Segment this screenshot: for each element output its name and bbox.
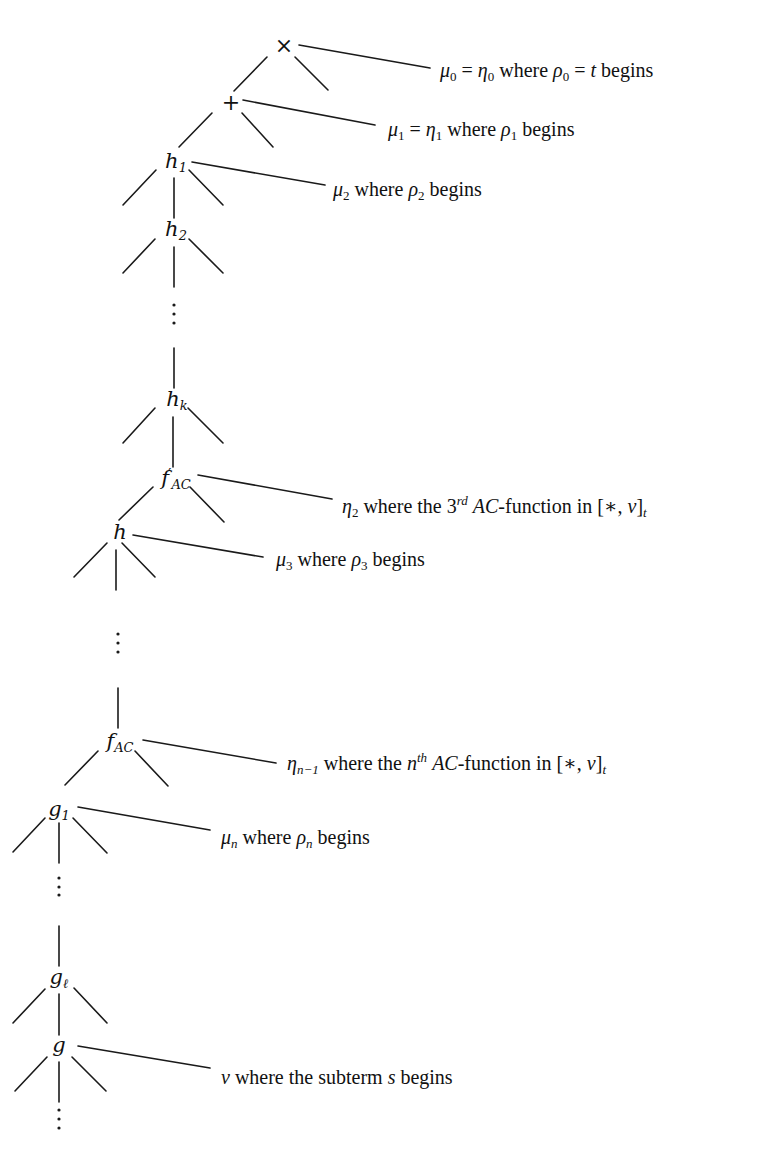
tree-edge [13, 818, 45, 852]
vertical-ellipsis-dot [57, 1117, 60, 1120]
annotation-nu: ν where the subterm s begins [221, 1067, 453, 1087]
vertical-ellipsis-dot [57, 876, 60, 879]
annotation-mu3: μ3 where ρ3 begins [276, 549, 425, 572]
node-subscript: ℓ [63, 976, 68, 991]
vertical-ellipsis-dot [57, 885, 60, 888]
vertical-ellipsis-dot [116, 650, 119, 653]
annotation-text-part: = [569, 59, 590, 81]
tree-node-f-ac: fAC [106, 731, 133, 754]
vertical-ellipsis-dot [172, 303, 175, 306]
annotation-pointer-line [192, 162, 325, 185]
tree-node-times: × [275, 35, 293, 57]
tree-node-g-l: gℓ [50, 967, 69, 990]
annotation-text-part: μ [388, 118, 398, 140]
annotation-text-part: begins [425, 178, 482, 200]
annotation-text-part: where [293, 548, 352, 570]
annotation-text-part: = [405, 118, 426, 140]
node-subscript: k [180, 398, 188, 413]
node-symbol: h [165, 149, 179, 173]
node-subscript: AC [171, 477, 190, 492]
annotation-text-part: ρ [408, 178, 418, 200]
annotation-text-part: where [494, 59, 553, 81]
annotation-pointer-line [243, 100, 375, 125]
annotation-text-part: where the [319, 752, 407, 774]
tree-edge [189, 239, 223, 273]
annotation-text-part: = [457, 59, 478, 81]
node-subscript: 1 [179, 160, 187, 175]
annotation-mu2: μ2 where ρ2 begins [333, 179, 482, 202]
node-symbol: f [106, 729, 114, 753]
annotation-text-part: n [407, 752, 417, 774]
annotation-text-part: -function in [∗, [458, 752, 587, 774]
annotation-text-part: μ [221, 826, 231, 848]
node-subscript: 2 [179, 228, 187, 243]
node-subscript: AC [114, 740, 133, 755]
annotation-eta-n-minus-1: ηn−1 where the nth AC-function in [∗, ν]… [287, 751, 606, 776]
annotation-text-part: ρ [351, 548, 361, 570]
tree-edge [74, 543, 107, 577]
node-subscript: 1 [62, 808, 70, 823]
term-tree-diagram: ×+h1h2hkf′AChfACg1gℓg μ0 = η0 where ρ0 =… [0, 0, 766, 1151]
annotation-text-part: begins [368, 548, 425, 570]
annotation-text-part: ρ [501, 118, 511, 140]
annotation-text-part: -function in [∗, [498, 495, 627, 517]
annotation-text-part: where the 3 [358, 495, 456, 517]
tree-edge [123, 170, 156, 205]
annotation-text-part: ν [587, 752, 596, 774]
tree-edge [123, 408, 155, 443]
tree-edge [72, 1057, 106, 1091]
tree-edge [242, 113, 273, 147]
annotation-text-part: t [602, 762, 606, 777]
annotation-text-part: η [287, 752, 297, 774]
tree-edge [188, 408, 223, 443]
annotation-pointer-line [143, 740, 276, 763]
tree-node-g1: g1 [48, 799, 70, 822]
annotation-text-part: begins [313, 826, 370, 848]
annotation-text-part: n−1 [297, 762, 319, 777]
tree-node-plus: + [222, 92, 240, 114]
annotation-pointer-line [299, 45, 430, 68]
tree-node-g: g [52, 1035, 65, 1056]
annotation-text-part: η [342, 495, 352, 517]
tree-edge [135, 751, 168, 786]
node-symbol: + [222, 90, 240, 115]
annotation-text-part: ρ [553, 59, 563, 81]
tree-edge [189, 170, 223, 205]
vertical-ellipsis-dot [57, 1108, 60, 1111]
annotation-pointer-line [78, 1046, 210, 1068]
vertical-ellipsis-dot [116, 632, 119, 635]
node-symbol: g [50, 965, 63, 989]
tree-node-h1: h1 [165, 151, 187, 174]
annotation-text-part: ν [221, 1066, 230, 1088]
node-symbol: h [113, 520, 127, 544]
annotation-text-part: where [238, 826, 297, 848]
node-symbol: g [52, 1033, 65, 1057]
vertical-ellipsis-dot [57, 893, 60, 896]
annotation-text-part: th [417, 750, 427, 765]
tree-edge [295, 57, 328, 90]
node-symbol: h [166, 387, 180, 411]
tree-edge [234, 57, 267, 91]
tree-edge [122, 543, 155, 577]
annotation-mu0: μ0 = η0 where ρ0 = t begins [440, 60, 653, 83]
tree-node-h2: h2 [165, 219, 187, 242]
annotation-text-part: μ [276, 548, 286, 570]
tree-node-hk: hk [166, 389, 187, 412]
tree-edge [13, 989, 45, 1023]
annotation-text-part: where [350, 178, 409, 200]
annotation-text-part: rd [457, 493, 468, 508]
tree-edge [190, 487, 224, 522]
annotation-text-part: ρ [296, 826, 306, 848]
annotation-text-part: η [478, 59, 488, 81]
node-symbol: g [48, 797, 61, 821]
tree-node-h: h [113, 522, 127, 543]
annotation-text-part: where the subterm [230, 1066, 388, 1088]
annotation-text-part: AC [432, 752, 458, 774]
annotation-pointer-line [198, 475, 332, 499]
annotation-text-part: μ [333, 178, 343, 200]
annotation-text-part: begins [517, 118, 574, 140]
annotation-pointer-line [133, 535, 263, 557]
annotation-text-part: t [643, 505, 647, 520]
annotation-pointer-line [78, 807, 210, 830]
tree-node-f-prime-ac: f′AC [161, 467, 191, 491]
